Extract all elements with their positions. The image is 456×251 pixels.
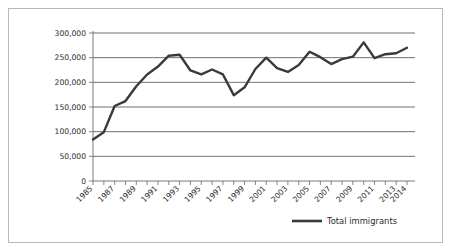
chart-legend: Total immigrants — [292, 216, 397, 226]
chart-frame: 050,000100,000150,000200,000250,000300,0… — [8, 8, 443, 243]
x-axis-tick-label: 2011 — [356, 184, 376, 204]
x-axis-tick-label: 2009 — [334, 184, 354, 204]
y-axis-ticks — [89, 33, 93, 181]
x-axis-ticks — [93, 181, 407, 185]
x-axis-tick-label: 1995 — [183, 184, 203, 204]
x-axis-tick-label: 2007 — [313, 184, 333, 204]
y-axis-tick-label: 50,000 — [59, 152, 86, 161]
data-line — [93, 42, 407, 139]
x-axis-tick-label: 2003 — [269, 184, 289, 204]
line-chart: 050,000100,000150,000200,000250,000300,0… — [9, 9, 442, 242]
y-axis-tick-labels: 050,000100,000150,000200,000250,000300,0… — [55, 29, 87, 186]
y-axis-tick-label: 100,000 — [55, 127, 87, 136]
x-axis-tick-label: 1991 — [139, 184, 159, 204]
x-axis-tick-label: 1999 — [226, 184, 246, 204]
y-axis-tick-label: 250,000 — [55, 53, 87, 62]
legend-label: Total immigrants — [326, 216, 397, 226]
y-axis-tick-label: 150,000 — [55, 103, 87, 112]
x-axis-tick-labels: 1985198719891991199319951997199920012003… — [74, 184, 408, 204]
x-axis-tick-label: 1997 — [204, 184, 224, 204]
x-axis-tick-label: 2005 — [291, 184, 311, 204]
x-axis-tick-label: 1985 — [74, 184, 94, 204]
gridlines-group — [93, 33, 415, 156]
y-axis-tick-label: 300,000 — [55, 29, 87, 38]
x-axis-tick-label: 1987 — [96, 184, 116, 204]
y-axis-tick-label: 0 — [81, 177, 86, 186]
data-series-group — [93, 42, 407, 139]
x-axis-tick-label: 1993 — [161, 184, 181, 204]
x-axis-tick-label: 2001 — [248, 184, 268, 204]
y-axis-tick-label: 200,000 — [55, 78, 87, 87]
x-axis-tick-label: 1989 — [118, 184, 138, 204]
